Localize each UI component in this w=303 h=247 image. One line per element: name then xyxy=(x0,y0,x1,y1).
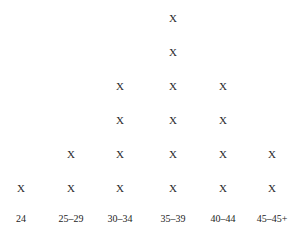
x-mark: X xyxy=(152,1,194,35)
x-axis-tick-label-30-34: 30–34 xyxy=(90,212,150,226)
x-mark: X xyxy=(251,137,293,171)
x-mark: X xyxy=(99,69,141,103)
x-mark: X xyxy=(152,137,194,171)
dot-column-35-39: X X X X X X xyxy=(152,1,194,205)
x-mark: X xyxy=(152,171,194,205)
x-mark: X xyxy=(152,103,194,137)
x-mark: X xyxy=(152,35,194,69)
x-mark: X xyxy=(202,137,244,171)
x-mark: X xyxy=(202,103,244,137)
x-axis-tick-label-45-45plus: 45–45+ xyxy=(242,212,302,226)
dot-column-25-29: X X xyxy=(50,137,92,205)
x-mark: X xyxy=(152,69,194,103)
x-mark: X xyxy=(99,171,141,205)
dot-column-40-44: X X X X xyxy=(202,69,244,205)
dot-column-45-45plus: X X xyxy=(251,137,293,205)
dot-column-30-34: X X X X xyxy=(99,69,141,205)
dot-plot-chart: X X X X X X X X X X X X X X X X X xyxy=(0,0,303,247)
x-mark: X xyxy=(251,171,293,205)
x-mark: X xyxy=(202,171,244,205)
x-mark: X xyxy=(50,171,92,205)
x-axis-labels: 24 25–29 30–34 35–39 40–44 45–45+ xyxy=(0,212,303,232)
x-mark: X xyxy=(0,171,42,205)
x-mark: X xyxy=(202,69,244,103)
x-mark: X xyxy=(99,137,141,171)
x-mark: X xyxy=(99,103,141,137)
plot-area: X X X X X X X X X X X X X X X X X xyxy=(0,0,303,205)
x-mark: X xyxy=(50,137,92,171)
dot-column-24: X xyxy=(0,171,42,205)
